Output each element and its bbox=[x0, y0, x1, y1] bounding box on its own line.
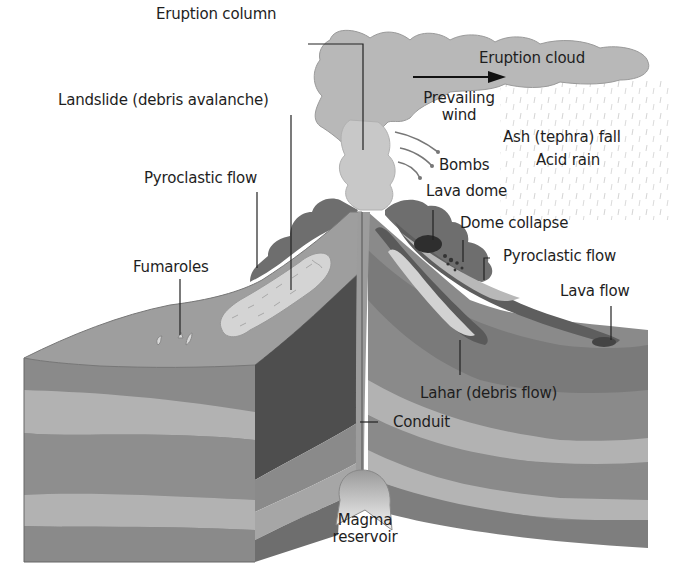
label-pyroclastic-flow-right: Pyroclastic flow bbox=[503, 248, 616, 265]
ash-fall-streaks bbox=[500, 80, 670, 220]
label-dome-collapse: Dome collapse bbox=[460, 215, 568, 232]
label-magma-line1: Magma bbox=[325, 512, 405, 529]
bomb-dots bbox=[418, 150, 440, 180]
lava-flow-tip bbox=[592, 337, 616, 347]
label-fumaroles: Fumaroles bbox=[133, 259, 209, 276]
lava-dome bbox=[414, 235, 442, 253]
label-lava-dome: Lava dome bbox=[426, 183, 507, 200]
label-eruption-column: Eruption column bbox=[156, 6, 276, 23]
label-acid-rain: Acid rain bbox=[536, 152, 600, 169]
label-prevailing-wind: Prevailing wind bbox=[415, 90, 503, 124]
label-bombs: Bombs bbox=[439, 157, 489, 174]
label-magma-line2: reservoir bbox=[325, 529, 405, 546]
label-lava-flow: Lava flow bbox=[560, 283, 629, 300]
label-conduit: Conduit bbox=[393, 414, 450, 431]
label-landslide: Landslide (debris avalanche) bbox=[58, 92, 269, 109]
rock-strata-front bbox=[24, 358, 255, 584]
label-prevailing-wind-line2: wind bbox=[415, 107, 503, 124]
label-pyroclastic-flow-left: Pyroclastic flow bbox=[144, 170, 257, 187]
volcano-diagram: Eruption column Eruption cloud Landslide… bbox=[0, 0, 680, 584]
conduit bbox=[356, 212, 370, 470]
label-eruption-cloud: Eruption cloud bbox=[479, 50, 585, 67]
bomb-trajectories bbox=[395, 132, 438, 178]
eruption-column-plume bbox=[339, 120, 395, 210]
label-ash-fall: Ash (tephra) fall bbox=[503, 129, 621, 146]
label-prevailing-wind-line1: Prevailing bbox=[415, 90, 503, 107]
label-lahar: Lahar (debris flow) bbox=[420, 385, 557, 402]
label-magma-reservoir: Magma reservoir bbox=[325, 512, 405, 546]
